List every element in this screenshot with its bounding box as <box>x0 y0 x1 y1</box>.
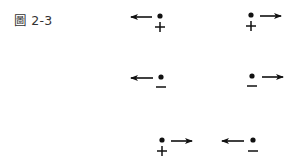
charge-item-mid-left <box>131 74 166 87</box>
plus-icon <box>155 22 165 32</box>
dot-icon <box>159 137 164 142</box>
dot-icon <box>250 137 255 142</box>
plus-icon <box>246 21 256 31</box>
charge-item-top-left <box>131 13 165 32</box>
charge-item-top-right <box>246 12 281 31</box>
charge-item-bottom-right <box>222 137 258 151</box>
dot-icon <box>249 73 254 78</box>
dot-icon <box>157 13 162 18</box>
dot-icon <box>158 74 163 79</box>
dot-icon <box>248 12 253 17</box>
charge-item-mid-right <box>247 73 283 86</box>
charge-item-bottom-left <box>157 137 192 156</box>
charge-diagram <box>0 0 305 168</box>
plus-icon <box>157 146 167 156</box>
